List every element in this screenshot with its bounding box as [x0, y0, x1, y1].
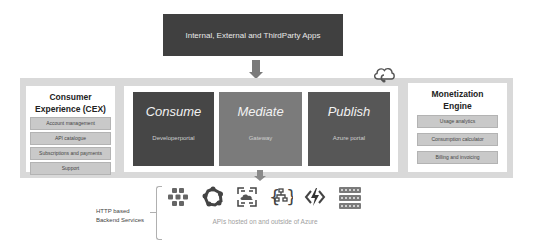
stage-publish-title: Publish — [308, 104, 390, 119]
stage-consume-subtitle: Developerportal — [133, 135, 214, 141]
monetization-item-consumption-calculator: Consumption calculator — [417, 133, 498, 146]
monetization-item-usage-analytics: Usage analytics — [417, 115, 498, 128]
cex-title-line1: Consumer — [26, 91, 115, 103]
stage-mediate-subtitle: Gateway — [219, 135, 302, 141]
stage-mediate: Mediate Gateway — [219, 92, 302, 166]
stage-consume: Consume Developerportal — [133, 92, 214, 166]
cex-title-line2: Experience (CEX) — [26, 103, 115, 115]
server-icon — [338, 186, 362, 208]
service-fabric-icon — [167, 186, 189, 208]
client-apps-box: Internal, External and ThirdParty Apps — [163, 14, 343, 56]
monetization-title-line1: Monetization — [408, 88, 507, 100]
monetization-title-line2: Engine — [408, 100, 507, 112]
stage-consume-title: Consume — [133, 104, 214, 119]
stage-publish-subtitle: Azure portal — [308, 135, 390, 141]
cex-item-account-management: Account management — [30, 117, 111, 130]
backend-caption: APIs hosted on and outside of Azure — [180, 218, 350, 225]
cex-item-subscriptions: Subscriptions and payments — [30, 147, 111, 160]
backend-label-line1: HTTP based — [96, 207, 144, 216]
monetization-engine-box: Monetization Engine Usage analytics Cons… — [408, 83, 507, 172]
backend-bracket — [156, 186, 162, 240]
cloud-api-icon — [372, 64, 396, 86]
backend-bracket-tick — [150, 212, 156, 213]
stage-mediate-title: Mediate — [219, 104, 302, 119]
backend-label: HTTP based Backend Services — [96, 207, 144, 225]
stage-publish: Publish Azure portal — [308, 92, 390, 166]
function-icon — [304, 186, 326, 208]
logic-app-icon: { } — [269, 186, 291, 208]
arrow-down-bottom-icon — [254, 176, 266, 181]
client-apps-label: Internal, External and ThirdParty Apps — [185, 31, 320, 40]
monetization-item-billing: Billing and invoicing — [417, 151, 498, 164]
backend-label-line2: Backend Services — [96, 216, 144, 225]
svg-text:}: } — [286, 186, 293, 207]
arrow-down-top-shaft — [252, 60, 260, 72]
cex-item-support: Support — [30, 162, 111, 175]
kubernetes-icon — [202, 186, 224, 208]
consumer-experience-box: Consumer Experience (CEX) Account manage… — [26, 86, 115, 172]
cex-item-api-catalogue: API catalogue — [30, 132, 111, 145]
app-service-icon — [236, 186, 258, 208]
